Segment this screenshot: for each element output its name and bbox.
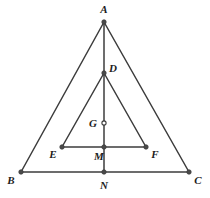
vertex-point-e bbox=[60, 145, 64, 149]
point-label-c: C bbox=[194, 175, 201, 186]
segment-de bbox=[62, 73, 104, 147]
vertex-point-c bbox=[187, 170, 191, 174]
point-label-a: A bbox=[100, 4, 107, 15]
point-label-g: G bbox=[89, 118, 97, 129]
vertex-point-n bbox=[102, 170, 106, 174]
point-label-d: D bbox=[109, 63, 117, 74]
point-label-n: N bbox=[100, 180, 108, 191]
segments-group bbox=[21, 22, 189, 172]
vertex-point-a bbox=[102, 20, 106, 24]
geometry-figure: ABCDEFGMN bbox=[0, 0, 210, 198]
point-label-m: M bbox=[94, 151, 104, 162]
vertex-point-d bbox=[102, 71, 106, 75]
point-label-b: B bbox=[7, 175, 14, 186]
point-label-e: E bbox=[49, 149, 56, 160]
figure-canvas bbox=[0, 0, 210, 198]
vertices-group bbox=[19, 20, 191, 174]
vertex-point-b bbox=[19, 170, 23, 174]
vertex-point-g bbox=[102, 121, 106, 125]
vertex-point-f bbox=[144, 145, 148, 149]
point-label-f: F bbox=[151, 149, 158, 160]
